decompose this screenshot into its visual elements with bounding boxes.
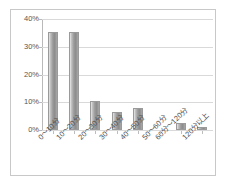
category-axis-tick-mark <box>138 131 139 134</box>
y-axis-tick-label: 10% <box>13 99 39 107</box>
category-axis-tick-mark <box>160 131 161 134</box>
y-axis-tick-mark <box>39 102 42 103</box>
category-axis-tick-mark <box>74 131 75 134</box>
bar-slot <box>63 19 84 130</box>
bar <box>176 123 186 130</box>
y-axis-tick-label: 40% <box>13 15 39 23</box>
category-axis-tick-mark <box>181 131 182 134</box>
category-axis-tick-mark <box>95 131 96 134</box>
bar-slot <box>42 19 63 130</box>
bar-slot <box>149 19 170 130</box>
bar-slot <box>106 19 127 130</box>
y-axis-tick-label: 30% <box>13 43 39 51</box>
y-axis-tick-mark <box>39 19 42 20</box>
bar <box>48 32 58 130</box>
y-axis-tick-label: 0% <box>13 126 39 134</box>
bar-slot <box>128 19 149 130</box>
bar-slot <box>85 19 106 130</box>
category-axis-tick-mark <box>117 131 118 134</box>
category-axis-tick-mark <box>202 131 203 134</box>
y-axis: 0%10%20%30%40% <box>11 19 39 130</box>
category-axis-tick-mark <box>53 131 54 134</box>
y-axis-tick-mark <box>39 75 42 76</box>
y-axis-tick-mark <box>39 47 42 48</box>
y-axis-tick-label: 20% <box>13 71 39 79</box>
y-axis-tick-mark <box>39 130 42 131</box>
chart-frame: 0%10%20%30%40% 0〜10分10〜20分20〜30分30〜40分40… <box>10 9 216 176</box>
